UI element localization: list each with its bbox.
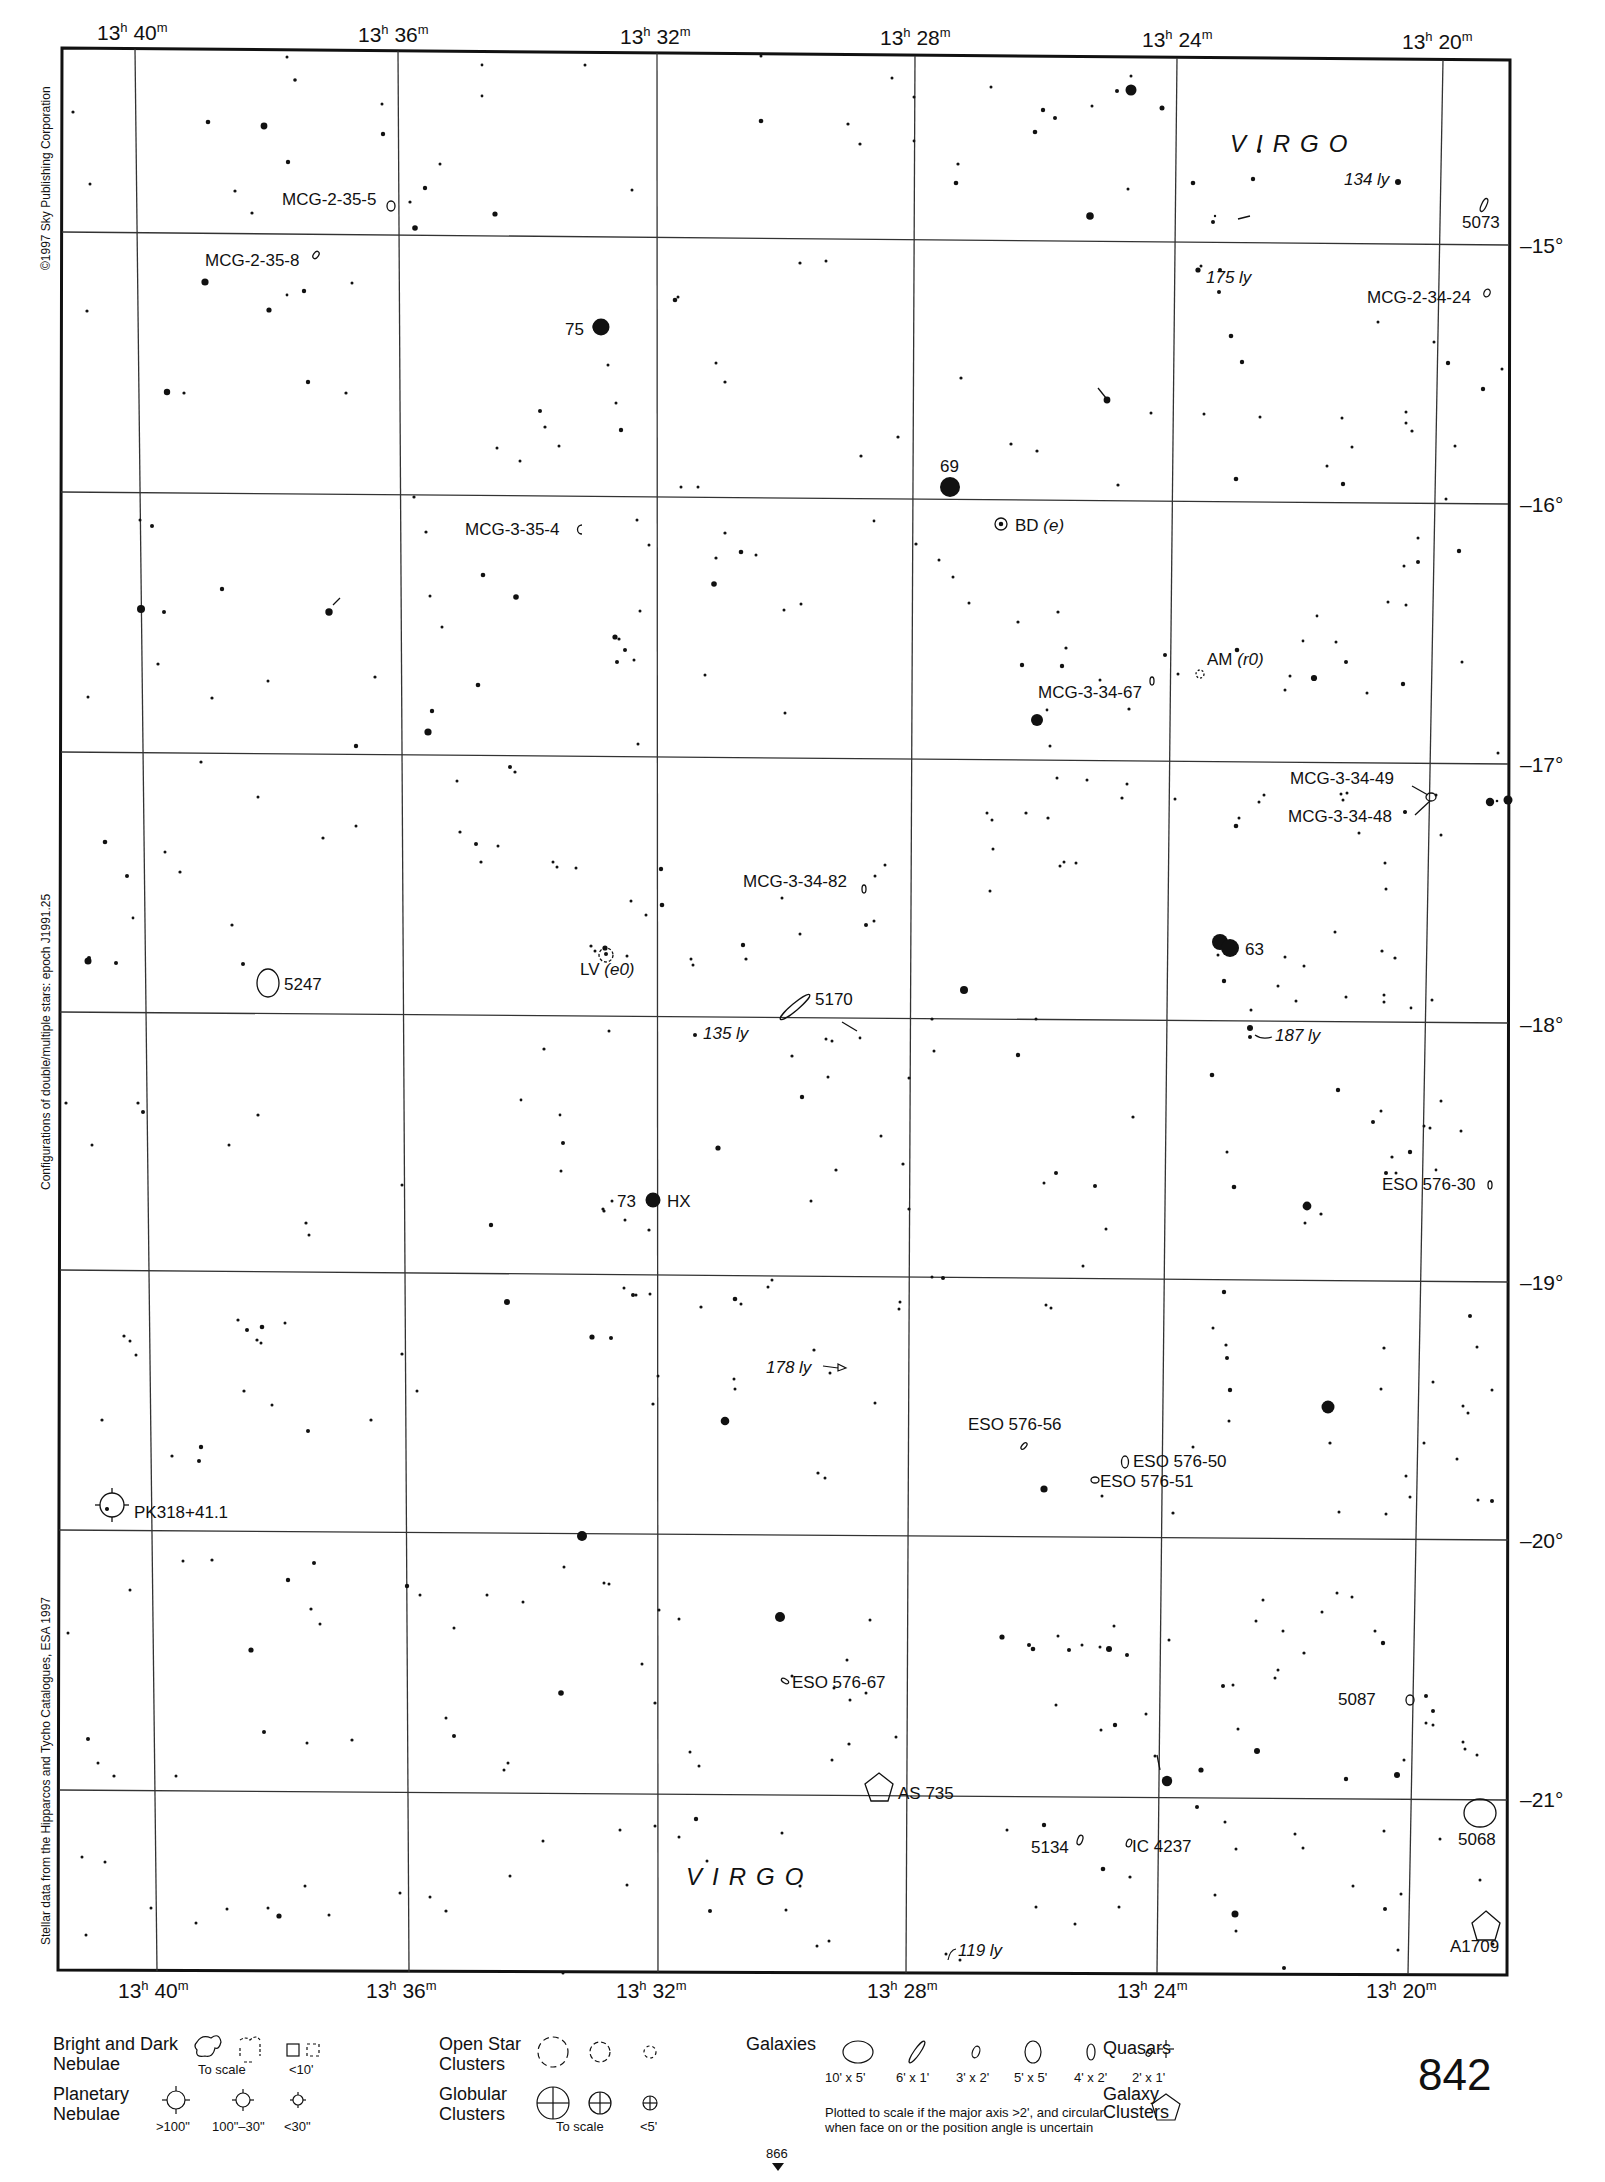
svg-text:Galaxy: Galaxy (1103, 2084, 1159, 2104)
svg-text:13h 20m: 13h 20m (1366, 1978, 1437, 2002)
svg-text:–16°: –16° (1520, 493, 1563, 516)
galaxy-4x2-icon (1087, 2044, 1095, 2060)
svg-text:13h 20m: 13h 20m (1402, 29, 1473, 53)
svg-text:–17°: –17° (1520, 753, 1563, 776)
star-75 (593, 319, 610, 336)
svg-text:MCG-3-34-67: MCG-3-34-67 (1038, 683, 1142, 702)
svg-text:>100": >100" (156, 2119, 190, 2134)
svg-text:10' x 5': 10' x 5' (825, 2070, 865, 2085)
planetary-nebula-large-icon (162, 2086, 190, 2114)
svg-text:Nebulae: Nebulae (53, 2104, 120, 2124)
star-73 (646, 1193, 661, 1208)
next-page-link[interactable]: 866 (766, 2146, 788, 2171)
svg-text:135 ly: 135 ly (703, 1024, 750, 1043)
svg-text:AS 735: AS 735 (898, 1784, 954, 1803)
svg-text:13h 32m: 13h 32m (616, 1978, 687, 2002)
svg-text:Plotted to scale if the major: Plotted to scale if the major axis >2', … (825, 2105, 1105, 2120)
star-field (64, 55, 1512, 1975)
svg-text:13h 24m: 13h 24m (1117, 1978, 1188, 2002)
svg-text:Galaxies: Galaxies (746, 2034, 816, 2054)
svg-text:MCG-3-34-82: MCG-3-34-82 (743, 872, 847, 891)
star-atlas-chart: ©1997 Sky Publishing Corporation Configu… (0, 0, 1605, 2182)
object-labels: MCG-2-35-5 MCG-2-35-8 5073 MCG-2-34-24 M… (134, 190, 1500, 1956)
svg-text:13h 28m: 13h 28m (880, 25, 951, 49)
open-cluster-large-icon (538, 2037, 568, 2067)
svg-text:–18°: –18° (1520, 1013, 1563, 1036)
svg-text:Clusters: Clusters (1103, 2102, 1169, 2122)
svg-text:–15°: –15° (1520, 234, 1563, 257)
svg-text:Nebulae: Nebulae (53, 2054, 120, 2074)
svg-text:5087: 5087 (1338, 1690, 1376, 1709)
svg-text:13h 24m: 13h 24m (1142, 27, 1213, 51)
svg-text:100"–30": 100"–30" (212, 2119, 265, 2134)
svg-text:MCG-2-35-8: MCG-2-35-8 (205, 251, 299, 270)
svg-text:Quasars: Quasars (1103, 2038, 1171, 2058)
svg-text:–19°: –19° (1520, 1271, 1563, 1294)
svg-text:ESO 576-30: ESO 576-30 (1382, 1175, 1476, 1194)
svg-text:5068: 5068 (1458, 1830, 1496, 1849)
svg-text:119 ly: 119 ly (958, 1941, 1004, 1960)
dark-nebula-icon (240, 2037, 260, 2062)
svg-text:13h 40m: 13h 40m (118, 1978, 189, 2002)
page-number: 842 (1418, 2050, 1491, 2099)
dec-grid (59, 232, 1508, 1800)
svg-text:13h 36m: 13h 36m (358, 22, 429, 46)
svg-text:13h 28m: 13h 28m (867, 1978, 938, 2002)
data-source-note: Stellar data from the Hipparcos and Tych… (39, 1597, 53, 1945)
svg-text:75: 75 (565, 320, 584, 339)
labeled-stars: 75 69 63 73 HX (565, 319, 1264, 1212)
svg-text:MCG-3-34-49: MCG-3-34-49 (1290, 769, 1394, 788)
arrow-down-icon (772, 2163, 784, 2171)
svg-text:5' x 5': 5' x 5' (1014, 2070, 1047, 2085)
svg-text:73: 73 (617, 1192, 636, 1211)
svg-text:3' x 2': 3' x 2' (956, 2070, 989, 2085)
planetary-nebula-small-icon (290, 2092, 306, 2108)
svg-text:HX: HX (667, 1192, 691, 1211)
globular-cluster-medium-icon (589, 2092, 611, 2114)
svg-text:Bright and Dark: Bright and Dark (53, 2034, 179, 2054)
svg-text:13h 36m: 13h 36m (366, 1978, 437, 2002)
small-bright-nebula-icon (287, 2044, 299, 2056)
svg-text:BD (e): BD (e) (1015, 516, 1064, 535)
svg-text:2' x 1': 2' x 1' (1132, 2070, 1165, 2085)
svg-text:–20°: –20° (1520, 1529, 1563, 1552)
svg-text:69: 69 (940, 457, 959, 476)
svg-text:MCG-3-34-48: MCG-3-34-48 (1288, 807, 1392, 826)
svg-text:when face on or the position a: when face on or the position angle is un… (824, 2120, 1093, 2135)
svg-text:Planetary: Planetary (53, 2084, 129, 2104)
svg-text:ESO 576-51: ESO 576-51 (1100, 1472, 1194, 1491)
epoch-note: Configurations of double/multiple stars:… (39, 893, 53, 1190)
svg-text:5170: 5170 (815, 990, 853, 1009)
star-69 (940, 477, 960, 497)
svg-text:178 ly: 178 ly (766, 1358, 813, 1377)
globular-cluster-small-icon (643, 2096, 657, 2110)
constellation-name-top: VIRGO (1230, 130, 1357, 157)
svg-text:ESO 576-67: ESO 576-67 (792, 1673, 886, 1692)
svg-text:<10': <10' (289, 2062, 314, 2077)
svg-text:4' x 2': 4' x 2' (1074, 2070, 1107, 2085)
svg-text:6' x 1': 6' x 1' (896, 2070, 929, 2085)
svg-text:PK318+41.1: PK318+41.1 (134, 1503, 228, 1522)
svg-text:63: 63 (1245, 940, 1264, 959)
svg-text:A1709: A1709 (1450, 1937, 1499, 1956)
svg-text:To scale: To scale (556, 2119, 604, 2134)
svg-text:13h 40m: 13h 40m (97, 20, 168, 44)
svg-text:To scale: To scale (198, 2062, 246, 2077)
svg-text:Globular: Globular (439, 2084, 507, 2104)
planetary-nebula-medium-icon (232, 2089, 254, 2111)
small-dark-nebula-icon (307, 2044, 319, 2056)
dec-labels: –15° –16° –17° –18° –19° –20° –21° (1520, 234, 1563, 1811)
svg-text:MCG-2-34-24: MCG-2-34-24 (1367, 288, 1471, 307)
ra-grid (135, 49, 1443, 1974)
svg-text:175 ly: 175 ly (1206, 268, 1253, 287)
svg-text:866: 866 (766, 2146, 788, 2161)
svg-text:<5': <5' (640, 2119, 657, 2134)
galaxy-10x5-icon (843, 2041, 873, 2063)
svg-text:Open Star: Open Star (439, 2034, 521, 2054)
bright-nebula-icon (195, 2036, 221, 2057)
copyright-note: ©1997 Sky Publishing Corporation (39, 86, 53, 270)
galaxy-3x2-icon (971, 2045, 982, 2059)
ra-labels-top: 13h 40m 13h 36m 13h 32m 13h 28m 13h 24m … (97, 20, 1473, 53)
constellation-name-bottom: VIRGO (686, 1863, 813, 1890)
svg-text:ESO 576-50: ESO 576-50 (1133, 1452, 1227, 1471)
